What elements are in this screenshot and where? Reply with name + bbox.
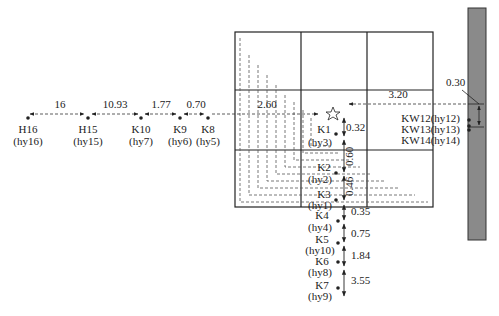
dist-h15-k10: 10.93: [103, 98, 128, 110]
left-points: [26, 116, 210, 120]
point-alias: (hy2): [308, 173, 332, 186]
dist-k6-k7: 3.55: [351, 274, 371, 286]
point-label: K1: [317, 123, 330, 135]
dist-to-wall: 3.20: [388, 88, 408, 100]
point-label: K9: [173, 123, 187, 135]
dist-k4-k5: 0.75: [351, 227, 371, 239]
dist-k8-star: 2.60: [257, 98, 277, 110]
star-icon: [326, 107, 340, 120]
point-label: H16: [19, 123, 38, 135]
kw-points: [467, 118, 471, 132]
point-alias: (hy9): [308, 290, 332, 303]
point-alias: (hy5): [196, 135, 220, 148]
point-alias: (hy16): [13, 135, 43, 148]
dist-k1-k2: 0.60: [343, 146, 355, 166]
point-label: K10: [132, 123, 151, 135]
dist-k2-k3: 0.46: [343, 176, 355, 196]
point-alias: (hy8): [308, 266, 332, 279]
dist-k5-k6: 1.84: [351, 249, 371, 261]
point-label: H15: [79, 123, 98, 135]
point-alias: (hy3): [308, 136, 332, 149]
point-label: K8: [201, 123, 215, 135]
dist-k1-star: 0.32: [346, 121, 365, 133]
point-alias: (hy7): [129, 135, 153, 148]
point-label: K2: [317, 161, 330, 173]
point-alias: (hy6): [168, 135, 192, 148]
lower-points: [336, 219, 340, 290]
dist-k9-k8: 0.70: [186, 98, 206, 110]
dist-k3-k4: 0.35: [351, 205, 371, 217]
point-alias: (hy15): [73, 135, 103, 148]
point-label: K4: [315, 209, 329, 221]
wall-offset-label: 0.30: [446, 76, 466, 88]
diagram-canvas: 16 10.93 1.77 0.70 2.60 H16 (hy16) H15 (…: [0, 0, 499, 316]
dashed-contours: [240, 38, 428, 202]
dist-h16-h15: 16: [55, 98, 67, 110]
kw-label: KW14(hy14): [401, 134, 460, 147]
wall: [468, 8, 486, 240]
dist-k10-k9: 1.77: [151, 98, 171, 110]
